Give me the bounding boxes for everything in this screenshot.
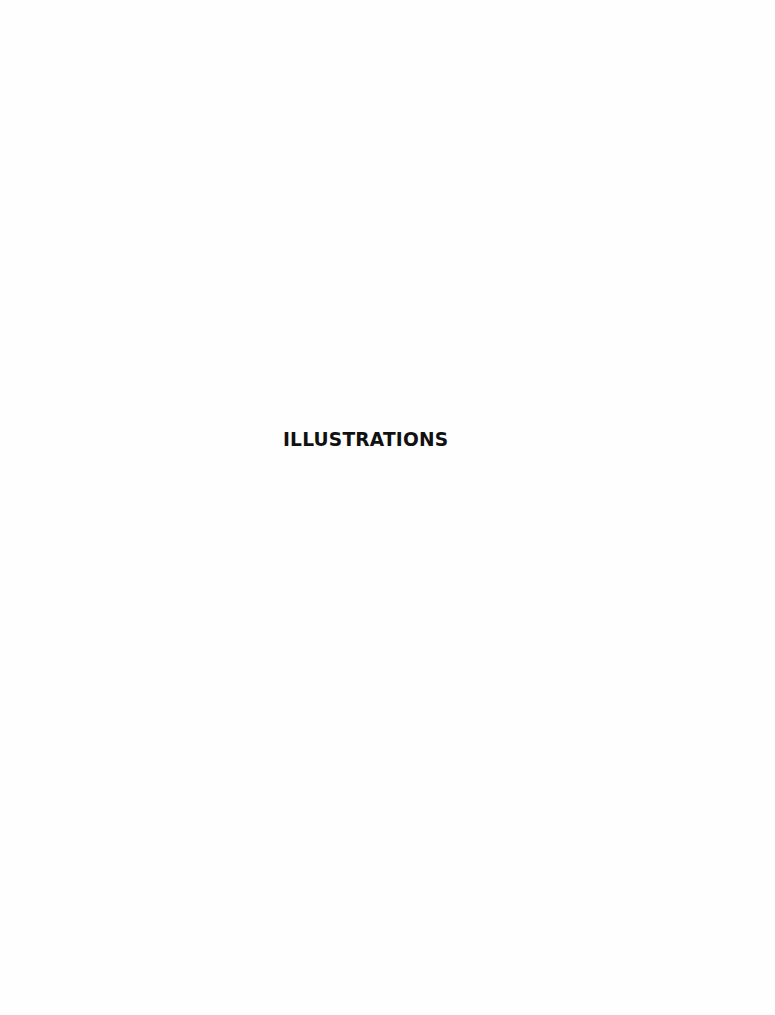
section-heading: ILLUSTRATIONS xyxy=(283,427,448,451)
document-page: ILLUSTRATIONS xyxy=(0,0,775,1015)
